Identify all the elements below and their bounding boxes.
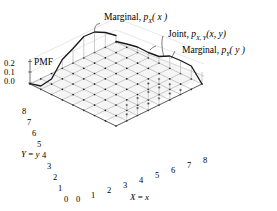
x-axis-tick-3: 3 [123,180,127,190]
joint-pmf-figure: .gl{stroke:#8f8f8f;stroke-width:.45;fill… [0,0,277,211]
x-axis-tick-0: 0 [76,194,80,204]
annotation-marginal-x-args: ( x ) [152,12,167,22]
y-axis-title-val: y [36,149,40,159]
y-axis-tick-3: 3 [47,161,51,171]
y-axis-title-eq: = [26,149,36,159]
y-axis-title: Y = y [21,149,40,159]
annotation-joint-subscript: X, Y [196,34,206,41]
annotation-joint-prefix: Joint, [168,29,191,39]
y-axis-tick-1: 1 [58,183,62,193]
annotation-marginal-x-prefix: Marginal, [104,12,143,22]
leader-joint [162,36,164,57]
x-axis-tick-1: 1 [91,190,95,200]
y-axis-tick-8: 8 [22,106,26,116]
annotation-joint: Joint, pX, Y(x, y) [168,29,226,41]
leader-marginal-y [150,46,156,50]
x-axis-tick-8: 8 [203,155,207,165]
x-axis-tick-5: 5 [155,170,159,180]
z-axis-title: PMF [34,57,53,67]
x-axis-title: X = x [130,192,149,202]
y-axis-tick-5: 5 [37,139,41,149]
x-axis-title-val: x [145,192,149,202]
y-axis-tick-6: 6 [32,128,36,138]
x-axis-title-eq: = [136,192,146,202]
annotation-marginal-x: Marginal, pX( x ) [104,12,167,24]
y-axis-tick-0: 0 [64,194,68,204]
y-axis-tick-2: 2 [53,172,57,182]
y-axis-tick-4: 4 [42,150,46,160]
x-axis-tick-7: 7 [187,160,191,170]
annotation-joint-args: (x, y) [206,29,226,39]
annotation-marginal-y: Marginal, pY( y ) [182,45,245,57]
y-axis-tick-7: 7 [27,117,31,127]
x-axis-tick-2: 2 [107,185,111,195]
annotation-marginal-y-args: ( y ) [230,45,245,55]
x-axis-tick-6: 6 [171,165,175,175]
x-axis-tick-4: 4 [139,175,143,185]
leader-marginal-x [95,24,101,32]
z-axis-tick-2: 0.0 [4,76,15,86]
annotation-marginal-y-prefix: Marginal, [182,45,221,55]
